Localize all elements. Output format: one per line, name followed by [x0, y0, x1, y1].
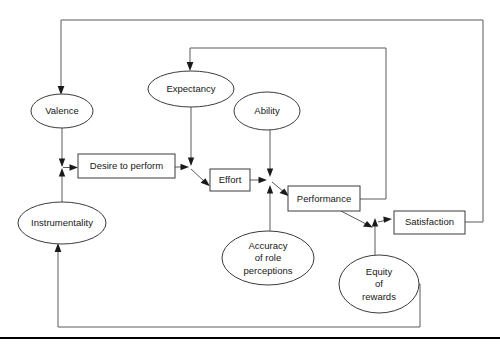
- performance-label: Performance: [297, 193, 351, 204]
- diagram-root: Valence Expectancy Ability Instrumentali…: [0, 0, 500, 352]
- effort-label: Effort: [219, 174, 242, 185]
- edge-desire-to-effort: [175, 164, 210, 186]
- edge-equity-to-satisfaction: [372, 218, 378, 255]
- edge-performance-to-satisfaction: [341, 211, 392, 228]
- satisfaction-label: Satisfaction: [405, 216, 454, 227]
- edge-accuracy-to-performance: [267, 185, 273, 231]
- edge-instrumentality-to-desire: [59, 168, 65, 202]
- edge-junction-to-performance: [272, 182, 289, 196]
- equity-line-1: Equity: [366, 266, 393, 277]
- instrumentality-label: Instrumentality: [31, 217, 93, 228]
- node-desire-to-perform[interactable]: Desire to perform: [78, 154, 175, 178]
- edge-junction-to-desire: [63, 164, 78, 170]
- node-effort[interactable]: Effort: [210, 169, 250, 191]
- node-accuracy-of-role-perceptions[interactable]: Accuracy of role perceptions: [222, 231, 314, 285]
- desire-to-perform-label: Desire to perform: [90, 160, 163, 171]
- equity-line-3: rewards: [362, 291, 396, 302]
- equity-line-2: of: [375, 278, 383, 289]
- node-ability[interactable]: Ability: [234, 92, 300, 130]
- node-performance[interactable]: Performance: [288, 186, 360, 211]
- ability-label: Ability: [254, 105, 280, 116]
- node-valence[interactable]: Valence: [31, 94, 93, 128]
- edge-ability-to-performance: [267, 130, 273, 177]
- valence-label: Valence: [45, 105, 79, 116]
- node-satisfaction[interactable]: Satisfaction: [394, 211, 465, 234]
- expectancy-label: Expectancy: [166, 83, 215, 94]
- edge-effort-to-performance: [250, 177, 267, 183]
- accuracy-line-3: perceptions: [243, 265, 292, 276]
- node-expectancy[interactable]: Expectancy: [148, 71, 234, 107]
- accuracy-line-2: of role: [255, 252, 281, 263]
- edge-expectancy-to-effort: [188, 107, 194, 166]
- edge-valence-to-desire: [59, 128, 65, 167]
- process-flow-diagram: Valence Expectancy Ability Instrumentali…: [0, 0, 500, 352]
- node-instrumentality[interactable]: Instrumentality: [18, 202, 106, 244]
- accuracy-line-1: Accuracy: [248, 240, 287, 251]
- node-equity-of-rewards[interactable]: Equity of rewards: [339, 255, 419, 313]
